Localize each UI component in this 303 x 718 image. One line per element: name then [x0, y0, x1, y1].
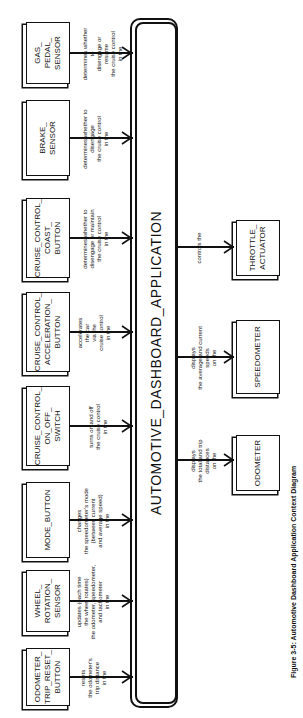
arrow-icon: [122, 132, 131, 144]
flow-label-odometer-reset: resets the odometer's trip distance in t…: [80, 658, 108, 698]
output-speedometer: SPEEDOMETER: [236, 320, 280, 394]
arrow-icon: [122, 595, 131, 607]
arrow-icon: [122, 232, 131, 244]
flow-label-on-off: turns on and off the cruise control in t…: [88, 404, 109, 450]
output-odometer: ODOMETER: [236, 435, 280, 491]
flow-label-coast: determines whether to disengage or maint…: [82, 209, 110, 268]
arrow-icon: [122, 420, 131, 432]
flow-label-throttle: controls the: [196, 232, 203, 263]
flow-label-speedometer: displays the average and current speeds …: [190, 326, 218, 390]
flow-label-gas: determines whether to disengage or resum…: [82, 27, 124, 81]
flow-label-brake: determines whether to disengage the crui…: [82, 109, 110, 168]
flow-line: [177, 246, 234, 248]
flow-label-odometer: displays the total and trip distances on…: [190, 439, 218, 482]
arrow-icon: [122, 671, 131, 683]
flow-label-acceleration: accelerates the car via the cruise contr…: [77, 315, 112, 351]
flow-label-mode: changes the speedometer's mode (between …: [76, 488, 111, 554]
figure-caption: Figure 3-5: Automotive Dashboard Applica…: [290, 466, 297, 678]
flow-label-wheel-rotation: updates (each time the wheel rotates) th…: [76, 565, 111, 640]
arrow-icon: [122, 514, 131, 526]
arrow-icon: [122, 326, 131, 338]
context-diagram: AUTOMOTIVE_DASHBOARD_APPLICATION ODOMETE…: [0, 0, 303, 718]
output-throttle-actuator: THROTTLE_ ACTUATOR: [236, 220, 280, 276]
